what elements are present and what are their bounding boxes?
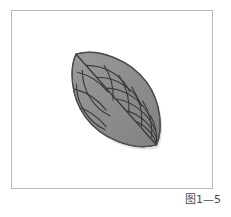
- leaf-illustration: [12, 11, 212, 188]
- figure-frame: [11, 10, 213, 189]
- figure-caption: 图1—5: [185, 193, 221, 207]
- figure-container: 图1—5: [0, 0, 231, 217]
